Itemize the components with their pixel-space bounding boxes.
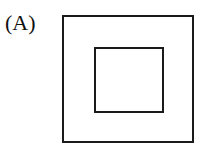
inner-square <box>94 47 164 113</box>
figure-label: (A) <box>5 12 36 34</box>
